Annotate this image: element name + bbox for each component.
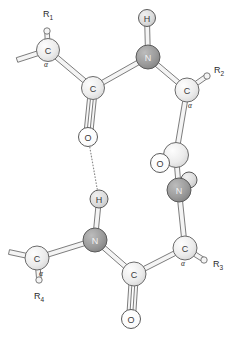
- atom-sphere-ca1: [37, 39, 60, 62]
- substituent-cap-r3: [201, 257, 207, 263]
- atom-h3-h: [90, 190, 108, 208]
- atom-ca2-c: [175, 78, 199, 102]
- atom-sphere-h1: [139, 10, 156, 27]
- atom-sphere-o1: [79, 128, 98, 147]
- atom-n3-n: [83, 228, 107, 252]
- atom-o3-o: [122, 310, 141, 329]
- atom-sphere-c1: [82, 77, 105, 100]
- atom-n2-n: [167, 178, 191, 202]
- atom-n1-n: [136, 45, 160, 69]
- atom-sphere-c3: [122, 262, 146, 286]
- substituent-cap-r1: [44, 28, 50, 34]
- atom-sphere-n1: [136, 45, 160, 69]
- atom-c1-c: [82, 77, 105, 100]
- molecule-diagram-canvas: R1R2R3R4 CαCONHCαONCαCONHCα: [0, 0, 234, 339]
- atom-ca3-c: [173, 236, 197, 260]
- atom-sphere-o2: [151, 154, 170, 173]
- atom-c3-c: [122, 262, 146, 286]
- diagram-background: [0, 0, 234, 339]
- atom-sphere-o3: [122, 310, 141, 329]
- atom-o2-o: [151, 154, 170, 173]
- molecular-structure-svg: R1R2R3R4 CαCONHCαONCαCONHCα: [0, 0, 234, 339]
- substituent-cap-r4: [36, 277, 42, 283]
- atom-sphere-h3: [90, 190, 108, 208]
- atom-sphere-n2: [167, 178, 191, 202]
- atom-sphere-ca4: [25, 246, 49, 270]
- atom-sphere-ca3: [173, 236, 197, 260]
- atom-ca4-c: [25, 246, 49, 270]
- atom-o1-o: [79, 128, 98, 147]
- substituent-cap-r2: [204, 73, 210, 79]
- atom-sphere-ca2: [175, 78, 199, 102]
- atom-sphere-n3: [83, 228, 107, 252]
- atom-h1-h: [139, 10, 156, 27]
- atom-ca1-c: [37, 39, 60, 62]
